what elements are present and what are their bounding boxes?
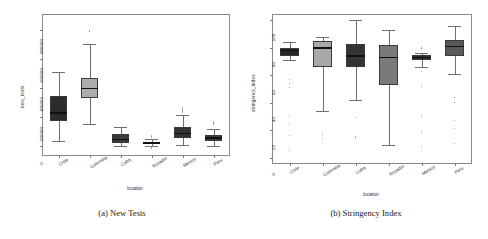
whisker-cap bbox=[382, 145, 396, 146]
outlier-point bbox=[289, 83, 290, 84]
outlier-point bbox=[454, 97, 455, 98]
outlier-point bbox=[289, 87, 290, 88]
outlier-point bbox=[182, 112, 183, 113]
whisker-cap bbox=[349, 20, 363, 21]
whisker-cap bbox=[283, 60, 297, 61]
outlier-point bbox=[421, 132, 422, 133]
x-tick-mark bbox=[90, 155, 91, 158]
outlier-point bbox=[322, 134, 323, 135]
outlier-point bbox=[289, 116, 290, 117]
outlier-point bbox=[289, 124, 290, 125]
y-axis-label-a: new_tests bbox=[20, 86, 25, 108]
x-tick-mark bbox=[152, 155, 153, 158]
x-tick-mark bbox=[422, 163, 423, 166]
median-line bbox=[174, 133, 192, 134]
outlier-point bbox=[421, 86, 422, 87]
y-tick-label: 800000 bbox=[39, 30, 44, 64]
whisker-cap bbox=[448, 26, 462, 27]
whisker-cap bbox=[52, 141, 65, 142]
outlier-point bbox=[289, 79, 290, 80]
box-chile bbox=[50, 96, 68, 121]
x-tick-label-cuba: Cuba bbox=[119, 157, 131, 167]
median-line bbox=[412, 57, 431, 58]
outlier-point bbox=[289, 135, 290, 136]
outlier-point bbox=[151, 147, 152, 148]
outlier-point bbox=[89, 30, 90, 31]
x-tick-label-peru: Peru bbox=[453, 165, 464, 174]
figure-two-panel-boxplots: new_tests 0200000400000600000800000Chile… bbox=[0, 0, 488, 239]
whisker-cap bbox=[176, 115, 189, 116]
caption-b: (b) Stringency Index bbox=[244, 208, 488, 218]
box-peru bbox=[445, 40, 464, 56]
y-tick-label: 400000 bbox=[39, 88, 44, 122]
outlier-point bbox=[421, 116, 422, 117]
median-line bbox=[313, 47, 332, 48]
outlier-point bbox=[322, 138, 323, 139]
outlier-point bbox=[454, 128, 455, 129]
median-line bbox=[205, 137, 223, 138]
x-tick-label-cuba: Cuba bbox=[354, 165, 366, 175]
x-tick-mark bbox=[323, 163, 324, 166]
median-line bbox=[280, 50, 299, 51]
outlier-point bbox=[421, 71, 422, 72]
whisker-cap bbox=[349, 100, 363, 101]
whisker-cap bbox=[382, 30, 396, 31]
plot-area-stringency-index: 020406080100ChileColombiaCubaEcuadorMexi… bbox=[272, 14, 472, 164]
caption-a: (a) New Tests bbox=[0, 208, 244, 218]
outlier-point bbox=[289, 150, 290, 151]
median-line bbox=[379, 57, 398, 58]
plot-area-new-tests: 0200000400000600000800000ChileColombiaCu… bbox=[42, 14, 230, 156]
x-axis-label-a: location bbox=[42, 186, 228, 191]
whisker-cap bbox=[83, 44, 96, 45]
outlier-point bbox=[454, 102, 455, 103]
x-axis-label-b: location bbox=[272, 192, 470, 197]
y-tick-label: 100 bbox=[271, 20, 276, 54]
outlier-point bbox=[421, 47, 422, 48]
outlier-point bbox=[421, 146, 422, 147]
x-tick-mark bbox=[455, 163, 456, 166]
whisker-cap bbox=[415, 67, 429, 68]
x-tick-mark bbox=[389, 163, 390, 166]
panel-new-tests: new_tests 0200000400000600000800000Chile… bbox=[0, 0, 244, 239]
y-tick-label: 600000 bbox=[39, 59, 44, 93]
x-tick-label-ecuador: Ecuador bbox=[388, 164, 405, 177]
panel-stringency-index: stringency_index 020406080100ChileColomb… bbox=[244, 0, 488, 239]
median-line bbox=[445, 46, 464, 47]
x-tick-label-ecuador: Ecuador bbox=[151, 156, 168, 169]
box-colombia bbox=[313, 41, 332, 67]
median-line bbox=[143, 142, 161, 143]
whisker-cap bbox=[283, 42, 297, 43]
whisker-cap bbox=[114, 146, 127, 147]
x-tick-mark bbox=[290, 163, 291, 166]
whisker-cap bbox=[207, 129, 220, 130]
y-tick-label: 200000 bbox=[39, 117, 44, 151]
whisker-cap bbox=[114, 127, 127, 128]
x-tick-label-chile: Chile bbox=[57, 157, 68, 167]
whisker-cap bbox=[52, 72, 65, 73]
whisker-cap bbox=[145, 139, 158, 140]
whisker-cap bbox=[83, 124, 96, 125]
x-tick-mark bbox=[183, 155, 184, 158]
x-tick-label-mexico: Mexico bbox=[182, 156, 197, 168]
x-tick-mark bbox=[356, 163, 357, 166]
x-tick-label-colombia: Colombia bbox=[89, 155, 108, 169]
whisker-cap bbox=[207, 146, 220, 147]
outlier-point bbox=[213, 124, 214, 125]
median-line bbox=[346, 55, 365, 56]
x-tick-mark bbox=[214, 155, 215, 158]
x-tick-label-peru: Peru bbox=[212, 157, 223, 166]
outlier-point bbox=[454, 120, 455, 121]
whisker-cap bbox=[316, 111, 330, 112]
outlier-point bbox=[355, 117, 356, 118]
whisker-cap bbox=[176, 145, 189, 146]
x-tick-mark bbox=[121, 155, 122, 158]
median-line bbox=[50, 112, 68, 113]
outlier-point bbox=[355, 136, 356, 137]
x-tick-label-colombia: Colombia bbox=[322, 163, 341, 177]
box-ecuador bbox=[379, 45, 398, 85]
x-tick-label-mexico: Mexico bbox=[421, 164, 436, 176]
outlier-point bbox=[454, 143, 455, 144]
median-line bbox=[81, 88, 99, 89]
median-line bbox=[112, 139, 130, 140]
x-tick-label-chile: Chile bbox=[288, 165, 299, 175]
